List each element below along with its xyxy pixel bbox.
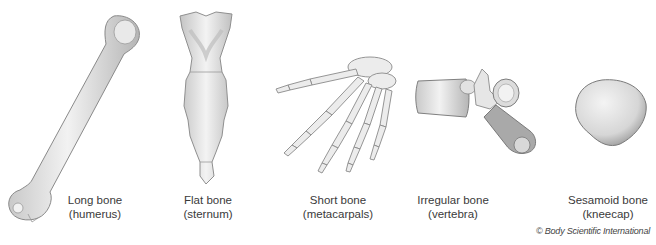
sternum-illustration: [176, 10, 236, 185]
flat-bone-label: Flat bone (sternum): [168, 193, 248, 221]
sesamoid-bone-label: Sesamoid bone (kneecap): [558, 193, 656, 221]
flat-bone-example: (sternum): [168, 207, 248, 221]
long-bone-label: Long bone (humerus): [55, 193, 135, 221]
long-bone-name: Long bone: [55, 193, 135, 207]
hand-bones-illustration: [270, 55, 405, 175]
copyright-credit: © Body Scientific International: [536, 226, 650, 236]
short-bone-example: (metacarpals): [288, 207, 388, 221]
irregular-bone-name: Irregular bone: [403, 193, 503, 207]
kneecap-illustration: [572, 78, 648, 148]
short-bone-label: Short bone (metacarpals): [288, 193, 388, 221]
short-bone-name: Short bone: [288, 193, 388, 207]
long-bone-example: (humerus): [55, 207, 135, 221]
vertebra-illustration: [410, 65, 540, 155]
sesamoid-bone-name: Sesamoid bone: [558, 193, 656, 207]
flat-bone-name: Flat bone: [168, 193, 248, 207]
irregular-bone-label: Irregular bone (vertebra): [403, 193, 503, 221]
sesamoid-bone-example: (kneecap): [558, 207, 656, 221]
irregular-bone-example: (vertebra): [403, 207, 503, 221]
